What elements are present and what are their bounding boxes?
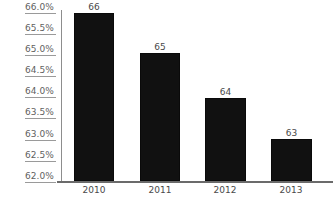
bar-2011 (140, 53, 180, 181)
bar-value-label: 63 (271, 128, 312, 138)
x-axis-tick-label: 2012 (195, 185, 255, 196)
bar-value-label: 64 (205, 87, 246, 97)
x-axis-tick-label: 2013 (261, 185, 321, 196)
x-axis-tick-label: 2010 (64, 185, 124, 196)
bar-2012 (205, 98, 246, 181)
x-axis-tick-label: 2011 (130, 185, 190, 196)
bar-2010 (74, 13, 114, 181)
bar-value-label: 66 (74, 2, 114, 12)
bar-chart: 66.0% 65.5% 65.0% 64.5% 64.0% 63.5% 63.0… (0, 0, 335, 206)
plot-area: 66 2010 65 2011 64 2012 63 2013 (0, 0, 335, 206)
bar-2013 (271, 139, 312, 181)
bar-value-label: 65 (140, 42, 180, 52)
